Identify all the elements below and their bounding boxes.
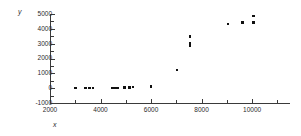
x-tick-label: 10000	[237, 107, 267, 114]
x-tick-label: 6000	[136, 107, 166, 114]
x-tick-label: 2000	[35, 107, 65, 114]
x-tick-minor	[277, 100, 278, 103]
y-tick-label: 1000	[38, 70, 52, 77]
y-tick-label: 3000	[38, 41, 52, 48]
data-point	[241, 21, 244, 24]
x-tick-major	[202, 99, 203, 103]
data-point	[189, 44, 192, 47]
y-tick-minor	[51, 96, 54, 97]
y-tick-minor	[51, 21, 54, 22]
x-tick-major	[252, 99, 253, 103]
data-point	[74, 87, 77, 90]
x-tick-minor	[176, 100, 177, 103]
x-tick-major	[151, 99, 152, 103]
y-tick-label: 5000	[38, 11, 52, 18]
data-point	[252, 15, 255, 18]
x-tick-minor	[227, 100, 228, 103]
y-tick-label: 0	[48, 85, 52, 92]
x-tick-major	[101, 99, 102, 103]
x-tick-minor	[126, 100, 127, 103]
y-tick-minor	[51, 81, 54, 82]
x-axis-title: x	[53, 121, 57, 128]
data-point	[117, 87, 120, 90]
data-point	[84, 87, 87, 90]
y-tick-minor	[51, 66, 54, 67]
data-point	[189, 35, 192, 38]
data-point	[132, 86, 135, 89]
scatter-plot: y x 200040006000800010000-10000100020003…	[0, 0, 301, 136]
y-tick-label: -1000	[35, 100, 52, 107]
y-tick-label: 2000	[38, 55, 52, 62]
data-point	[176, 69, 179, 72]
y-tick-label: 4000	[38, 26, 52, 33]
data-point	[92, 87, 95, 90]
y-axis-title: y	[18, 8, 22, 15]
y-tick-minor	[51, 51, 54, 52]
x-tick-label: 4000	[86, 107, 116, 114]
data-point	[150, 85, 153, 88]
x-axis-line	[50, 103, 290, 104]
data-point	[123, 86, 126, 89]
data-point	[88, 87, 91, 90]
y-tick-minor	[51, 36, 54, 37]
data-point	[252, 21, 255, 24]
x-tick-label: 8000	[187, 107, 217, 114]
data-point	[128, 86, 131, 89]
data-point	[227, 23, 230, 26]
x-tick-minor	[75, 100, 76, 103]
